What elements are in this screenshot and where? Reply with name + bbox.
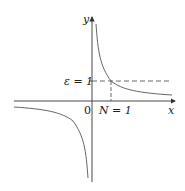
y-axis-label: y — [83, 14, 89, 25]
figure-canvas — [0, 0, 185, 191]
curve-right-branch — [96, 24, 172, 95]
N-label: N = 1 — [99, 105, 132, 116]
origin-label: 0 — [84, 105, 91, 116]
x-axis-label: x — [168, 105, 174, 116]
curve-left-branch — [14, 107, 88, 178]
epsilon-label: ε = 1 — [64, 76, 93, 87]
